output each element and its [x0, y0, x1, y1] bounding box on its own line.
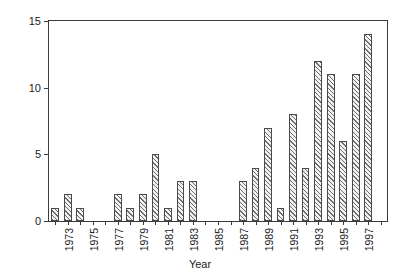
bar [327, 74, 335, 221]
y-axis-tick [44, 88, 49, 89]
x-axis-tick [118, 221, 119, 225]
x-axis-tick-label: 1997 [363, 228, 375, 251]
y-axis-tick [44, 154, 49, 155]
x-axis-tick [368, 221, 369, 225]
bar [364, 34, 372, 221]
y-axis-tick-label: 10 [29, 82, 41, 94]
x-axis-tick [293, 221, 294, 225]
bar [164, 208, 172, 221]
y-axis-tick-label: 5 [35, 148, 41, 160]
bar [239, 181, 247, 221]
x-axis-tick [243, 221, 244, 225]
x-axis-tick [155, 221, 156, 225]
x-axis-tick [193, 221, 194, 225]
x-axis-tick [55, 221, 56, 225]
bar-chart-figure: Number/year 051015 197319751977197919811… [0, 0, 400, 280]
x-axis-tick [93, 221, 94, 225]
x-axis-tick [318, 221, 319, 225]
x-axis-tick [231, 221, 232, 225]
bar [302, 168, 310, 221]
bar [189, 181, 197, 221]
bar [51, 208, 59, 221]
bar [76, 208, 84, 221]
bar [152, 154, 160, 221]
x-axis-tick [281, 221, 282, 225]
bar [352, 74, 360, 221]
x-axis-tick [168, 221, 169, 225]
bar [64, 194, 72, 221]
plot-area: 051015 197319751977197919811983198519871… [48, 20, 388, 222]
bar [264, 128, 272, 221]
bar [114, 194, 122, 221]
x-axis-tick [331, 221, 332, 225]
x-axis-title: Year [0, 258, 400, 270]
x-axis-tick-label: 1981 [163, 228, 175, 251]
bar [252, 168, 260, 221]
y-axis-tick-label: 0 [35, 215, 41, 227]
x-axis-tick-label: 1991 [288, 228, 300, 251]
x-axis-tick [105, 221, 106, 225]
x-axis-tick [306, 221, 307, 225]
y-axis-tick-label: 15 [29, 15, 41, 27]
bar [177, 181, 185, 221]
x-axis-tick [268, 221, 269, 225]
bar [339, 141, 347, 221]
y-axis-tick [44, 221, 49, 222]
x-axis-tick [68, 221, 69, 225]
x-axis-tick [205, 221, 206, 225]
x-axis-tick [80, 221, 81, 225]
bar [139, 194, 147, 221]
bar [277, 208, 285, 221]
x-axis-tick-label: 1979 [138, 228, 150, 251]
x-axis-tick [256, 221, 257, 225]
bar [289, 114, 297, 221]
x-axis-tick-label: 1993 [313, 228, 325, 251]
x-axis-tick-label: 1977 [113, 228, 125, 251]
bar [314, 61, 322, 221]
x-axis-tick-label: 1975 [88, 228, 100, 251]
x-axis-tick-label: 1973 [63, 228, 75, 251]
x-axis-tick [381, 221, 382, 225]
x-axis-tick-label: 1983 [188, 228, 200, 251]
x-axis-tick-label: 1985 [213, 228, 225, 251]
x-axis-tick [130, 221, 131, 225]
x-axis-tick-label: 1995 [338, 228, 350, 251]
x-axis-tick [180, 221, 181, 225]
x-axis-tick [343, 221, 344, 225]
x-axis-tick-label: 1987 [238, 228, 250, 251]
x-axis-tick-label: 1989 [263, 228, 275, 251]
x-axis-tick [218, 221, 219, 225]
bar [126, 208, 134, 221]
x-axis-tick [143, 221, 144, 225]
x-axis-tick [356, 221, 357, 225]
y-axis-tick [44, 21, 49, 22]
